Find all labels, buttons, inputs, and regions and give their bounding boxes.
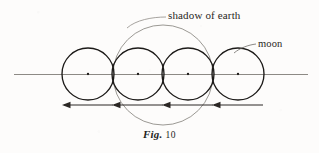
direction-arrow-3 (162, 102, 213, 109)
moon-center-dot-2 (137, 73, 139, 75)
moon-label: moon (258, 39, 283, 50)
shadow-of-earth-label: shadow of earth (168, 10, 241, 21)
direction-arrow-4 (212, 102, 263, 109)
figure-caption-number: 10 (165, 130, 176, 140)
figure-caption-prefix: Fig. (143, 128, 162, 140)
moon-center-dot-4 (237, 73, 239, 75)
figure-container: shadow of earth moon Fig.10 (0, 0, 319, 153)
figure-caption: Fig.10 (0, 128, 319, 140)
moon-center-dot-1 (87, 73, 89, 75)
direction-arrow-1 (62, 102, 113, 109)
shadow-label-leader-line (127, 17, 166, 28)
direction-arrow-2 (112, 102, 163, 109)
moon-center-dot-3 (187, 73, 189, 75)
